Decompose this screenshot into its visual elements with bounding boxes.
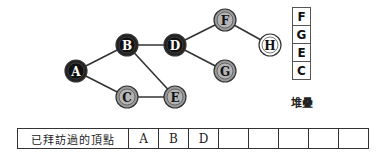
node-label: D — [170, 39, 180, 53]
node-H: H — [259, 34, 281, 56]
node-F: F — [214, 9, 236, 31]
node-E: E — [164, 86, 186, 108]
node-G: G — [214, 60, 236, 82]
node-label: B — [122, 39, 132, 53]
node-label: A — [70, 65, 81, 79]
node-label: H — [264, 39, 275, 53]
node-label: E — [170, 91, 179, 105]
visited-cell: B — [159, 129, 189, 149]
node-B: B — [116, 34, 138, 56]
stack-item: G — [292, 25, 311, 43]
stack-item: C — [292, 61, 311, 80]
stack-label: 堆疊 — [286, 94, 318, 110]
visited-vertices-table: 已拜訪過的頂點 A B D — [17, 128, 369, 149]
node-A: A — [65, 60, 87, 82]
stack-item: F — [292, 7, 311, 25]
stack: F G E C — [292, 7, 310, 80]
visited-header: 已拜訪過的頂點 — [18, 129, 129, 149]
visited-cell — [309, 129, 339, 149]
visited-cell: D — [189, 129, 219, 149]
node-label: C — [122, 91, 132, 105]
stack-item: E — [292, 43, 311, 61]
node-D: D — [164, 34, 186, 56]
graph-diagram: ABDFHGCE — [0, 0, 392, 125]
node-C: C — [116, 86, 138, 108]
visited-cell — [249, 129, 279, 149]
visited-cell: A — [129, 129, 159, 149]
visited-cell — [279, 129, 309, 149]
visited-cell — [219, 129, 249, 149]
visited-cell — [339, 129, 369, 149]
node-label: G — [220, 65, 230, 79]
node-label: F — [221, 14, 230, 28]
